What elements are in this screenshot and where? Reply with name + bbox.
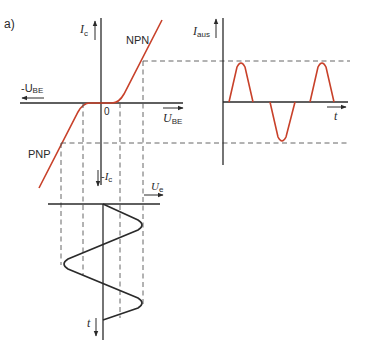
ue-label: Ue [151,180,164,194]
t-vertical-label: t [87,316,91,330]
input-voltage-plot: -Ic Ue t [48,170,164,340]
ube-label: UBE [163,111,182,126]
neg-ic-label: -Ic [101,170,112,184]
t-label: t [334,109,338,123]
transfer-characteristic: Ic -UBE UBE 0 NPN PNP [20,18,183,188]
origin-label: 0 [104,106,110,117]
npn-label: NPN [126,34,149,46]
iaus-label: Iaus [192,24,210,39]
panel-label: a) [4,17,15,31]
projection-lines [61,61,350,318]
push-pull-transfer-diagram: a) Ic -UBE UBE 0 NPN PNP Iaus [0,0,365,353]
ic-label: Ic [79,22,88,38]
neg-ube-label: -UBE [21,82,43,95]
pnp-label: PNP [28,148,51,160]
